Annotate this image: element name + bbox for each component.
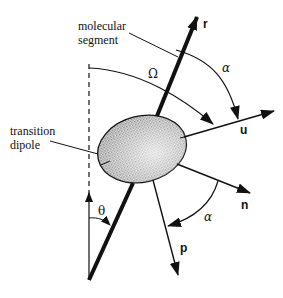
transition-dipole-ellipse <box>90 106 193 192</box>
omega-label: Ω <box>148 67 158 81</box>
transition-dipole-label-line2: dipole <box>10 138 40 152</box>
theta-label: θ <box>98 204 105 218</box>
alpha-label-bottom: α <box>204 210 212 224</box>
alpha-label-top: α <box>222 61 230 75</box>
molecular-segment-lower <box>89 183 133 280</box>
transition-dipole-leader-line <box>50 141 98 154</box>
molecular-segment-label-line1: molecular <box>78 19 126 33</box>
r-vector <box>157 17 197 116</box>
u-vector-label: u <box>240 123 247 137</box>
molecular-segment-label-line2: segment <box>78 33 119 47</box>
n-vector-label: n <box>241 198 248 212</box>
u-vector <box>184 111 274 137</box>
r-vector-label: r <box>203 17 208 31</box>
transition-dipole-label-line1: transition <box>10 124 55 138</box>
n-vector <box>177 164 250 193</box>
p-vector-label: p <box>180 241 187 255</box>
molecular-segment-leader-line <box>129 33 178 57</box>
theta-arc <box>89 218 110 225</box>
p-vector <box>153 180 178 275</box>
transition-dipole-diagram: molecular segment transition dipole Ω α … <box>0 0 283 298</box>
